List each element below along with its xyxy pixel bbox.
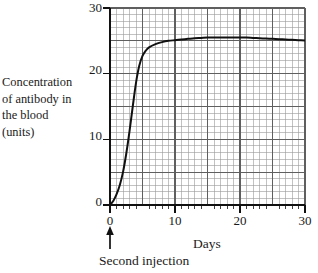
y-axis-major-ticks bbox=[103, 8, 110, 205]
x-axis-major-ticks bbox=[110, 205, 305, 213]
y-tick-label-0: 0 bbox=[78, 194, 102, 210]
x-tick-label-30: 30 bbox=[293, 213, 317, 229]
y-axis-title-line-2: of antibody in bbox=[2, 91, 94, 108]
second-injection-label: Second injection bbox=[99, 253, 189, 269]
y-tick-label-30: 30 bbox=[78, 0, 102, 16]
y-tick-label-20: 20 bbox=[78, 62, 102, 78]
y-axis-title-line-3: the blood bbox=[2, 107, 94, 124]
x-axis-name: Days bbox=[193, 236, 221, 252]
x-tick-label-0: 0 bbox=[98, 213, 122, 229]
y-tick-label-10: 10 bbox=[78, 128, 102, 144]
x-tick-label-20: 20 bbox=[228, 213, 252, 229]
x-tick-label-10: 10 bbox=[163, 213, 187, 229]
second-injection-arrow-icon bbox=[106, 226, 114, 249]
antibody-concentration-chart: Concentration of antibody in the blood (… bbox=[0, 0, 318, 273]
